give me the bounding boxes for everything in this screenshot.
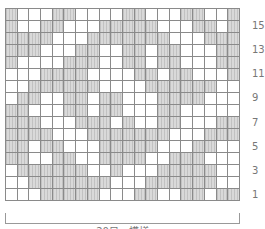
shaded-cell [76,69,88,81]
shaded-cell [76,93,88,105]
shaded-cell [217,117,229,129]
shaded-cell [53,69,65,81]
blank-cell [228,177,240,189]
blank-cell [100,81,112,93]
blank-cell [181,129,193,141]
blank-cell [170,33,182,45]
shaded-cell [193,165,205,177]
shaded-cell [41,177,53,189]
blank-cell [123,93,135,105]
blank-cell [193,117,205,129]
blank-cell [217,9,229,21]
shaded-cell [146,81,158,93]
blank-cell [76,129,88,141]
shaded-cell [29,129,41,141]
blank-cell [123,165,135,177]
row-label: 5 [252,141,264,153]
shaded-cell [135,189,147,201]
shaded-cell [111,33,123,45]
blank-cell [228,165,240,177]
shaded-cell [18,165,30,177]
blank-cell [158,153,170,165]
shaded-cell [18,153,30,165]
blank-cell [88,9,100,21]
shaded-cell [64,189,76,201]
shaded-cell [193,141,205,153]
shaded-cell [170,153,182,165]
blank-cell [170,141,182,153]
blank-cell [18,69,30,81]
blank-cell [228,81,240,93]
blank-cell [205,117,217,129]
blank-cell [205,153,217,165]
blank-cell [6,93,18,105]
shaded-cell [18,141,30,153]
blank-cell [135,105,147,117]
blank-cell [41,153,53,165]
shaded-cell [6,45,18,57]
shaded-cell [123,21,135,33]
blank-cell [41,117,53,129]
blank-cell [100,57,112,69]
shaded-cell [111,153,123,165]
shaded-cell [170,45,182,57]
shaded-cell [135,9,147,21]
blank-cell [135,165,147,177]
shaded-cell [6,33,18,45]
blank-cell [111,189,123,201]
shaded-cell [146,129,158,141]
blank-cell [228,141,240,153]
shaded-cell [111,129,123,141]
blank-cell [88,105,100,117]
blank-cell [53,45,65,57]
shaded-cell [170,165,182,177]
shaded-cell [146,189,158,201]
shaded-cell [123,129,135,141]
shaded-cell [193,177,205,189]
shaded-cell [217,45,229,57]
shaded-cell [158,117,170,129]
row-label: 3 [252,165,264,177]
blank-cell [158,9,170,21]
shaded-cell [181,93,193,105]
blank-cell [135,117,147,129]
shaded-cell [41,21,53,33]
shaded-cell [158,33,170,45]
shaded-cell [29,165,41,177]
shaded-cell [135,129,147,141]
shaded-cell [181,177,193,189]
shaded-cell [64,81,76,93]
shaded-cell [18,45,30,57]
shaded-cell [181,9,193,21]
blank-cell [135,177,147,189]
shaded-cell [170,105,182,117]
shaded-cell [76,81,88,93]
blank-cell [217,69,229,81]
blank-cell [123,81,135,93]
shaded-cell [123,141,135,153]
shaded-cell [76,57,88,69]
blank-cell [205,189,217,201]
shaded-cell [146,141,158,153]
shaded-cell [18,129,30,141]
shaded-cell [111,93,123,105]
blank-cell [181,117,193,129]
blank-cell [228,105,240,117]
shaded-cell [64,105,76,117]
shaded-cell [170,81,182,93]
shaded-cell [76,189,88,201]
shaded-cell [29,177,41,189]
shaded-cell [158,45,170,57]
blank-cell [111,57,123,69]
blank-cell [6,165,18,177]
shaded-cell [41,33,53,45]
blank-cell [146,105,158,117]
shaded-cell [193,189,205,201]
shaded-cell [111,165,123,177]
blank-cell [111,45,123,57]
shaded-cell [6,141,18,153]
shaded-cell [205,165,217,177]
shaded-cell [193,153,205,165]
shaded-cell [29,33,41,45]
blank-cell [205,105,217,117]
